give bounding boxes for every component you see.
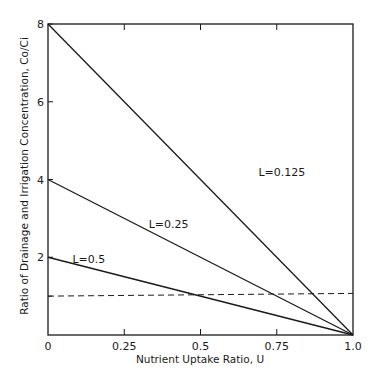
series-line <box>48 24 353 335</box>
x-tick-label: 0.5 <box>192 340 210 353</box>
line-chart: 00.250.50.751.02468 L=0.125L=0.25L=0.5 N… <box>0 0 383 391</box>
y-tick-label: 4 <box>37 174 44 187</box>
series-lines <box>48 24 353 335</box>
x-tick-label: 0.25 <box>112 340 137 353</box>
line-label: L=0.25 <box>149 218 189 231</box>
x-tick-label: 0.75 <box>265 340 290 353</box>
x-tick-label: 1.0 <box>344 340 362 353</box>
y-axis-title: Ratio of Drainage and Irrigation Concent… <box>18 37 30 315</box>
x-tick-label: 0 <box>45 340 52 353</box>
y-tick-label: 2 <box>37 251 44 264</box>
x-axis-title: Nutrient Uptake Ratio, U <box>136 353 264 365</box>
axis-ticks: 00.250.50.751.02468 <box>37 18 362 353</box>
line-label: L=0.125 <box>258 166 305 179</box>
y-tick-label: 6 <box>37 96 44 109</box>
line-label: L=0.5 <box>72 253 105 266</box>
y-tick-label: 8 <box>37 18 44 31</box>
